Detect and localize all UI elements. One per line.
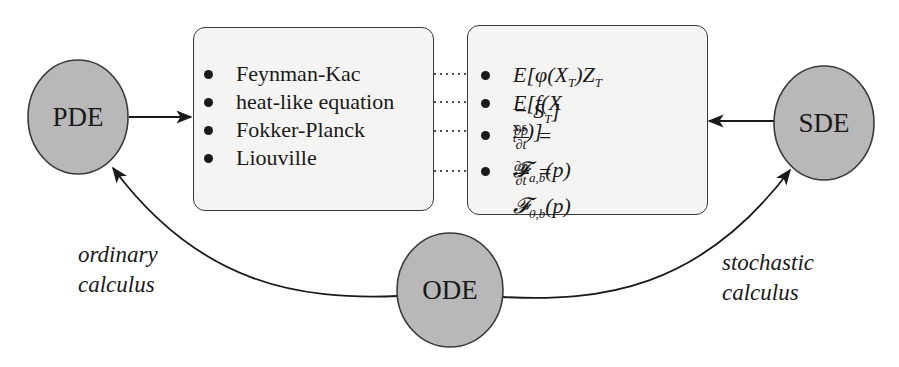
stochastic-calculus-label: stochastic calculus <box>722 248 814 308</box>
bullet-icon <box>204 126 213 135</box>
ordinary-calculus-label: ordinary calculus <box>78 240 158 300</box>
dotted-connectors <box>434 74 468 171</box>
diagram-canvas: PDE SDE ODE <box>0 0 899 367</box>
sde-label: SDE <box>798 108 849 138</box>
ode-label: ODE <box>422 275 478 305</box>
bullet-icon <box>204 70 213 79</box>
pde-node: PDE <box>28 60 128 174</box>
ode-node: ODE <box>397 233 503 347</box>
sde-formulas-box: E[φ(XT)ZT − ST] E[f(Xx,st)] ∂p∂t = 𝓕a,b(… <box>467 25 708 215</box>
bullet-icon <box>481 99 490 108</box>
bullet-icon <box>204 98 213 107</box>
sde-node: SDE <box>774 66 874 180</box>
pde-label: PDE <box>52 102 103 132</box>
bullet-icon <box>481 131 490 140</box>
bullet-icon <box>481 71 490 80</box>
pde-methods-box: Feynman-Kac heat-like equation Fokker-Pl… <box>193 27 434 211</box>
bullet-icon <box>204 154 213 163</box>
formula-liouville: ∂p∂t = 𝓕0,b(p) <box>513 155 571 231</box>
bullet-icon <box>481 167 490 176</box>
